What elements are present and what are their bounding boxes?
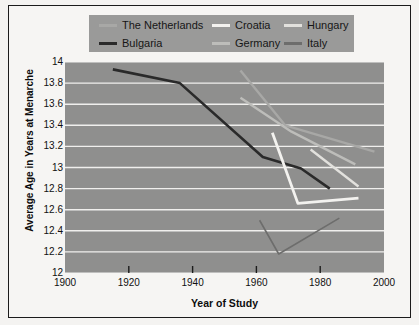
- legend-label-netherlands: The Netherlands: [122, 16, 203, 34]
- legend-label-germany: Germany: [235, 34, 280, 52]
- x-tick-label: 1920: [109, 277, 149, 288]
- data-line-italy: [260, 218, 340, 254]
- legend-swatch-netherlands: [99, 24, 117, 27]
- legend-item-bulgaria[interactable]: Bulgaria: [99, 34, 162, 52]
- legend-item-netherlands[interactable]: The Netherlands: [99, 16, 203, 34]
- legend-item-italy[interactable]: Italy: [284, 34, 327, 52]
- x-tick-label: 2000: [364, 277, 404, 288]
- x-tick-label: 1940: [173, 277, 213, 288]
- plot-canvas: [65, 62, 384, 273]
- legend-swatch-italy: [284, 42, 302, 45]
- legend-swatch-hungary: [284, 24, 302, 27]
- legend-item-germany[interactable]: Germany: [212, 34, 280, 52]
- x-axis-title: Year of Study: [65, 297, 384, 309]
- legend-item-croatia[interactable]: Croatia: [212, 16, 270, 34]
- data-line-germany: [240, 98, 355, 164]
- legend-item-hungary[interactable]: Hungary: [284, 16, 349, 34]
- legend-swatch-germany: [212, 42, 230, 45]
- legend-row-bottom: Bulgaria Germany Italy: [89, 34, 354, 52]
- x-tick-label: 1960: [236, 277, 276, 288]
- chart-figure: The Netherlands Croatia Hungary Bulgaria…: [0, 0, 419, 325]
- legend-row-top: The Netherlands Croatia Hungary: [89, 16, 354, 34]
- x-tick-label: 1900: [45, 277, 85, 288]
- legend-label-croatia: Croatia: [235, 16, 270, 34]
- legend-swatch-bulgaria: [99, 42, 117, 45]
- legend-label-italy: Italy: [307, 34, 327, 52]
- x-tick-label: 1980: [300, 277, 340, 288]
- y-axis-title: Average Age in Years at Menarche: [24, 51, 35, 251]
- legend-label-bulgaria: Bulgaria: [122, 34, 162, 52]
- plot-area: [65, 62, 384, 273]
- chart-legend: The Netherlands Croatia Hungary Bulgaria…: [89, 15, 354, 52]
- legend-swatch-croatia: [212, 24, 230, 27]
- legend-label-hungary: Hungary: [307, 16, 349, 34]
